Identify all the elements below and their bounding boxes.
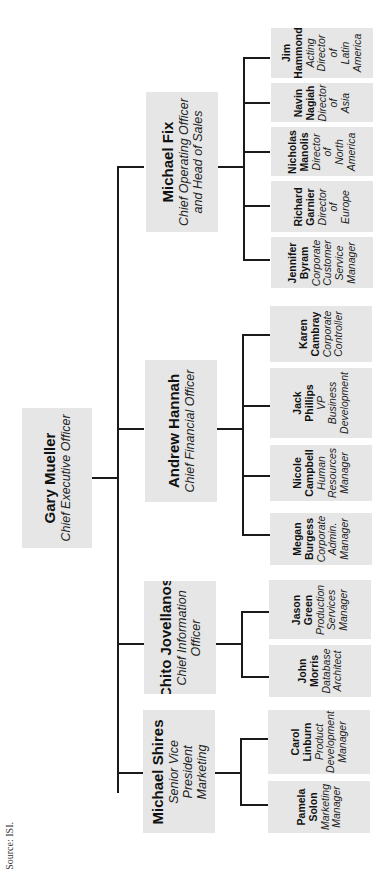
- report-name-line: Linburn: [301, 711, 313, 773]
- branch: [243, 259, 270, 261]
- source-caption: Source: ISI.: [4, 822, 15, 870]
- report-name-line: Burgess: [303, 516, 315, 563]
- branch: [242, 334, 270, 336]
- exec-title-line: Senior Vice: [166, 719, 180, 824]
- report-name-line: Jack: [292, 372, 304, 434]
- report-box-jason-green[interactable]: Jason Green Production Services Manager: [269, 580, 371, 639]
- report-name-line: Jennifer: [287, 239, 299, 286]
- report-name-line: Morris: [308, 649, 320, 694]
- exec-box-michael-fix[interactable]: Michael Fix Chief Operating Officer and …: [146, 92, 218, 232]
- branch: [242, 534, 270, 536]
- ceo-title: Chief Executive Officer: [58, 414, 72, 541]
- report-title-line: Manager: [337, 711, 349, 773]
- report-name-line: Navin: [293, 84, 305, 121]
- report-title-line: America: [346, 130, 358, 174]
- report-title-line: Manager: [331, 784, 343, 830]
- report-name-line: Karen: [298, 311, 310, 358]
- spine-shires: [240, 738, 242, 806]
- report-name-line: Megan: [292, 516, 304, 563]
- branch: [242, 475, 270, 477]
- report-title-line: Manager: [338, 584, 350, 634]
- connector-fix: [117, 166, 144, 168]
- connector-fix-out: [218, 166, 245, 168]
- spine-jovellanos: [241, 611, 243, 678]
- branch: [243, 151, 270, 153]
- branch: [243, 102, 270, 104]
- exec-name: Andrew Hannah: [166, 370, 183, 493]
- exec-box-chito-jovellanos[interactable]: Chito Jovellanos Chief Information Offic…: [144, 581, 216, 694]
- connector-shires: [117, 772, 144, 774]
- branch: [242, 405, 270, 407]
- report-name-line: Nicholas: [287, 130, 299, 174]
- report-box-jack-phillips[interactable]: Jack Phillips VP Business Development: [270, 368, 372, 438]
- report-box-jennifer-byram[interactable]: Jennifer Byram Corporate Customer Servic…: [271, 237, 373, 288]
- report-box-karen-cambray[interactable]: Karen Cambray Corporate Controller: [270, 306, 372, 362]
- report-name-line: Cambray: [309, 311, 321, 358]
- connector-jovellanos: [117, 643, 144, 645]
- branch: [240, 804, 268, 806]
- report-name-line: Jason: [291, 584, 303, 634]
- report-box-carol-linburn[interactable]: Carol Linburn Product Development Manage…: [268, 710, 370, 774]
- report-title-line: Europe: [340, 187, 352, 226]
- report-box-richard-garnier[interactable]: Richard Garnier Director of Europe: [271, 181, 373, 232]
- exec-box-andrew-hannah[interactable]: Andrew Hannah Chief Financial Officer: [145, 360, 217, 502]
- spine-fix: [243, 57, 245, 261]
- exec-box-michael-shires[interactable]: Michael Shires Senior Vice President Mar…: [143, 710, 215, 833]
- connector-shires-out: [215, 772, 242, 774]
- report-name-line: Manolis: [299, 130, 311, 174]
- branch: [243, 205, 270, 207]
- report-title-line: Architect: [332, 649, 344, 694]
- report-name-line: Carol: [290, 711, 302, 773]
- report-box-megan-burgess[interactable]: Megan Burgess Corporate Admin. Manager: [270, 513, 372, 565]
- report-box-nicole-campbell[interactable]: Nicole Campbell Human Resources Manager: [270, 445, 372, 501]
- report-box-john-morris[interactable]: John Morris Database Architect: [269, 645, 371, 697]
- report-title-line: Controller: [333, 311, 345, 358]
- report-title-line: Development: [339, 372, 351, 434]
- report-name-line: Green: [302, 584, 314, 634]
- report-name-line: Solon: [307, 784, 319, 830]
- report-box-nicholas-manolis[interactable]: Nicholas Manolis Director of North Ameri…: [271, 127, 373, 176]
- exec-name: Chito Jovellanos: [158, 581, 175, 694]
- report-name-line: Nagiah: [304, 84, 316, 121]
- ceo-box[interactable]: Gary Mueller Chief Executive Officer: [22, 408, 92, 548]
- spine-hannah: [242, 334, 244, 536]
- exec-name: Michael Fix: [160, 98, 177, 226]
- report-title-line: Service: [334, 239, 346, 286]
- report-title-line: Manager: [339, 516, 351, 563]
- exec-title-line: Officer: [188, 581, 202, 694]
- branch: [243, 57, 270, 59]
- spine-main: [117, 166, 119, 793]
- report-title-line: Manager: [346, 239, 358, 286]
- connector-ceo: [92, 477, 119, 479]
- report-box-navin-nagiah[interactable]: Navin Nagiah Director of Asia: [271, 83, 373, 122]
- report-name-line: John: [297, 649, 309, 694]
- report-name-line: Hammond: [293, 28, 305, 78]
- branch: [241, 611, 269, 613]
- report-title-line: Latin: [340, 28, 352, 78]
- report-name-line: Nicole: [292, 448, 304, 498]
- branch: [240, 738, 268, 740]
- report-box-pamela-solon[interactable]: Pamela Solon Marketing Manager: [268, 781, 370, 833]
- exec-title-line: Chief Operating Officer: [176, 98, 190, 226]
- exec-title-line: and Head of Sales: [190, 98, 204, 226]
- report-title-line: Manager: [339, 448, 351, 498]
- report-title-line: North: [334, 130, 346, 174]
- report-name-line: Richard: [293, 187, 305, 226]
- report-name-line: Pamela: [296, 784, 308, 830]
- exec-title-line: President: [180, 719, 194, 824]
- report-title-line: America: [351, 28, 363, 78]
- report-box-jim-hammond[interactable]: Jim Hammond Acting Director of Latin Ame…: [271, 28, 373, 78]
- report-name-line: Jim: [281, 28, 293, 78]
- exec-title-line: Chief Financial Officer: [182, 370, 196, 493]
- connector-hannah-out: [217, 428, 244, 430]
- report-name-line: Phillips: [303, 372, 315, 434]
- exec-title-line: Marketing: [194, 719, 208, 824]
- branch: [241, 676, 269, 678]
- ceo-name: Gary Mueller: [42, 414, 59, 541]
- connector-hannah: [117, 428, 144, 430]
- report-name-line: Campbell: [303, 448, 315, 498]
- report-title-line: Asia: [340, 84, 352, 121]
- exec-name: Michael Shires: [150, 719, 167, 824]
- report-title-line: of: [328, 28, 340, 78]
- exec-title-line: Chief Information: [174, 581, 188, 694]
